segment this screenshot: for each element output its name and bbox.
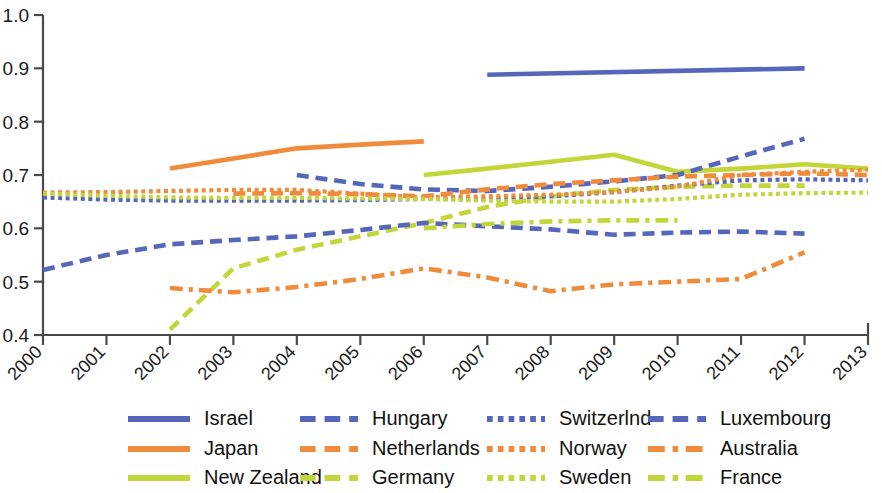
x-tick-label: 2012	[765, 342, 807, 384]
x-tick-label: 2009	[575, 342, 617, 384]
legend-item[interactable]: Japan	[128, 437, 259, 459]
legend-item[interactable]: Switzerlnd	[487, 407, 651, 429]
series-lines	[43, 68, 868, 329]
legend-label: Australia	[720, 437, 799, 459]
legend-label: Netherlands	[372, 437, 480, 459]
legend-item[interactable]: Luxembourg	[648, 407, 831, 429]
x-tick-label: 2000	[3, 342, 45, 384]
x-tick-label: 2008	[511, 342, 553, 384]
legend-label: Israel	[204, 407, 253, 429]
legend-label: Norway	[559, 437, 627, 459]
legend-item[interactable]: Germany	[300, 466, 454, 488]
x-tick-label: 2004	[257, 342, 299, 384]
y-tick-label: 0.7	[3, 165, 29, 186]
legend-item[interactable]: Hungary	[300, 407, 448, 429]
legend-item[interactable]: New Zealand	[128, 466, 322, 488]
series-line-luxembourg	[43, 223, 805, 270]
series-line-germany	[170, 186, 805, 330]
y-axis: 0.40.50.60.70.80.91.0	[3, 5, 43, 346]
legend-label: Sweden	[559, 466, 631, 488]
chart-legend: IsraelJapanNew ZealandHungaryNetherlands…	[128, 407, 831, 488]
x-tick-label: 2002	[130, 342, 172, 384]
series-line-japan	[170, 141, 424, 168]
legend-label: Hungary	[372, 407, 448, 429]
legend-item[interactable]: Sweden	[487, 466, 631, 488]
y-tick-label: 1.0	[3, 5, 29, 26]
chart-page: 0.40.50.60.70.80.91.0 200020012002200320…	[0, 0, 882, 493]
x-tick-label: 2005	[321, 342, 363, 384]
legend-label: Luxembourg	[720, 407, 831, 429]
line-chart: 0.40.50.60.70.80.91.0 200020012002200320…	[0, 0, 882, 493]
x-tick-label: 2010	[638, 342, 680, 384]
legend-item[interactable]: Australia	[648, 437, 799, 459]
legend-item[interactable]: Israel	[128, 407, 253, 429]
x-tick-label: 2011	[702, 342, 744, 384]
y-tick-label: 0.5	[3, 272, 29, 293]
legend-item[interactable]: Norway	[487, 437, 627, 459]
x-axis: 2000200120022003200420052006200720082009…	[3, 323, 870, 384]
x-tick-label: 2013	[828, 342, 870, 384]
legend-label: Switzerlnd	[559, 407, 651, 429]
legend-label: Japan	[204, 437, 259, 459]
legend-item[interactable]: Netherlands	[300, 437, 480, 459]
y-tick-label: 0.8	[3, 112, 29, 133]
x-tick-label: 2007	[448, 342, 490, 384]
series-line-israel	[487, 68, 804, 74]
x-tick-label: 2001	[67, 342, 109, 384]
y-tick-label: 0.4	[3, 325, 30, 346]
y-tick-label: 0.6	[3, 218, 29, 239]
legend-item[interactable]: France	[648, 466, 782, 488]
x-tick-label: 2006	[384, 342, 426, 384]
y-tick-label: 0.9	[3, 58, 29, 79]
x-tick-label: 2003	[194, 342, 236, 384]
legend-label: France	[720, 466, 782, 488]
series-line-hungary	[297, 139, 805, 191]
legend-label: Germany	[372, 466, 454, 488]
